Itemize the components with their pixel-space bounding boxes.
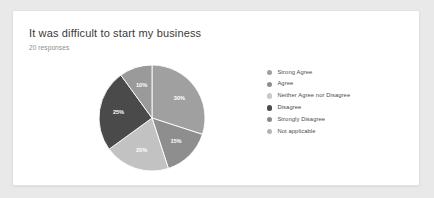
pie-slice-value-label: 10% bbox=[136, 82, 147, 88]
legend-item[interactable]: Neither Agree nor Disagree bbox=[267, 91, 417, 102]
legend-item[interactable]: Agree bbox=[267, 79, 417, 90]
legend-item[interactable]: Disagree bbox=[267, 102, 417, 113]
legend-color-dot-icon bbox=[267, 117, 272, 122]
legend-color-dot-icon bbox=[267, 70, 272, 75]
pie-slice-value-label: 25% bbox=[113, 109, 124, 115]
chart-legend: Strong AgreeAgreeNeither Agree nor Disag… bbox=[267, 67, 417, 138]
pie-slice-value-label: 30% bbox=[174, 95, 185, 101]
legend-item-label: Neither Agree nor Disagree bbox=[277, 93, 350, 99]
legend-item-label: Strongly Disagree bbox=[277, 117, 325, 123]
legend-item[interactable]: Not applicable bbox=[267, 126, 417, 137]
chart-area: 30%15%20%25%10% Strong AgreeAgreeNeither… bbox=[13, 11, 421, 187]
pie-slice-value-label: 20% bbox=[136, 147, 147, 153]
pie-slice-group bbox=[99, 65, 205, 171]
legend-item[interactable]: Strongly Disagree bbox=[267, 114, 417, 125]
page-root: It was difficult to start my business 20… bbox=[0, 0, 434, 198]
legend-item-label: Strong Agree bbox=[277, 70, 312, 76]
pie-chart: 30%15%20%25%10% bbox=[97, 63, 207, 173]
legend-color-dot-icon bbox=[267, 105, 272, 110]
legend-item[interactable]: Strong Agree bbox=[267, 67, 417, 78]
pie-chart-svg: 30%15%20%25%10% bbox=[97, 63, 207, 173]
legend-item-label: Disagree bbox=[277, 105, 301, 111]
legend-color-dot-icon bbox=[267, 82, 272, 87]
pie-slice-value-label: 15% bbox=[170, 138, 181, 144]
legend-color-dot-icon bbox=[267, 93, 272, 98]
legend-color-dot-icon bbox=[267, 129, 272, 134]
legend-item-label: Agree bbox=[277, 81, 293, 87]
legend-item-label: Not applicable bbox=[277, 129, 315, 135]
response-card: It was difficult to start my business 20… bbox=[12, 10, 420, 186]
